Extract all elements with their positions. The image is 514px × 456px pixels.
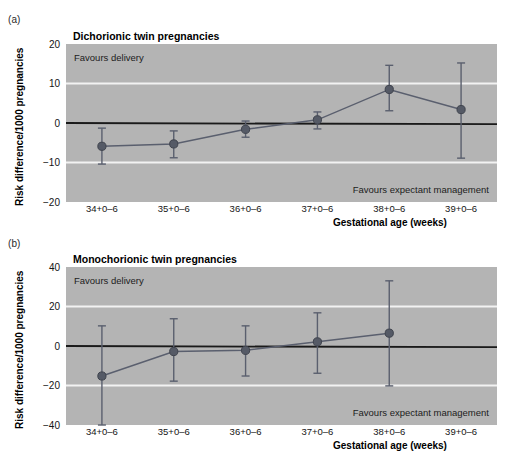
favours-expectant-management-note: Favours expectant management: [353, 184, 490, 195]
data-point-marker: [385, 329, 393, 337]
x-tick-label: 38+0–6: [373, 426, 405, 437]
x-tick-label: 34+0–6: [86, 426, 118, 437]
data-point-marker: [170, 140, 178, 148]
x-tick-label: 35+0–6: [158, 426, 190, 437]
x-tick-label: 38+0–6: [373, 203, 405, 214]
data-point-marker: [98, 372, 106, 380]
y-tick-label: 20: [49, 301, 61, 312]
y-tick-label: −20: [43, 197, 60, 208]
favours-expectant-management-note: Favours expectant management: [353, 407, 490, 418]
data-point-marker: [241, 125, 249, 133]
x-tick-label: 39+0–6: [445, 203, 477, 214]
data-point-marker: [241, 346, 249, 354]
panel-a-title: Dichorionic twin pregnancies: [73, 30, 219, 42]
panel-a-y-axis-title: Risk difference/1000 pregnancies: [14, 48, 25, 206]
y-tick-label: 0: [54, 341, 60, 352]
favours-delivery-note: Favours delivery: [74, 52, 144, 63]
y-tick-label: −40: [43, 420, 60, 431]
y-tick-label: 40: [49, 262, 61, 273]
panel-a-tag: (a): [8, 14, 21, 25]
data-point-marker: [98, 142, 106, 150]
x-tick-label: 36+0–6: [230, 203, 262, 214]
data-point-marker: [313, 116, 321, 124]
panel-b-monochorionic: (b) Monochorionic twin pregnancies Risk …: [0, 226, 514, 456]
y-tick-label: 20: [49, 39, 61, 50]
panel-b-title: Monochorionic twin pregnancies: [73, 253, 237, 265]
data-point-marker: [170, 347, 178, 355]
panel-b-y-axis-title: Risk difference/1000 pregnancies: [14, 271, 25, 429]
x-tick-label: 35+0–6: [158, 203, 190, 214]
panel-b-tag: (b): [8, 238, 21, 249]
data-point-marker: [385, 85, 393, 93]
y-tick-label: 0: [54, 118, 60, 129]
y-tick-label: 10: [49, 78, 61, 89]
x-tick-label: 37+0–6: [301, 426, 333, 437]
y-tick-label: −20: [43, 380, 60, 391]
y-tick-label: −10: [43, 157, 60, 168]
x-tick-label: 39+0–6: [445, 426, 477, 437]
panel-b-x-axis-title: Gestational age (weeks): [333, 440, 447, 451]
x-tick-label: 34+0–6: [86, 203, 118, 214]
data-point-marker: [457, 105, 465, 113]
favours-delivery-note: Favours delivery: [74, 275, 144, 286]
x-tick-label: 37+0–6: [301, 203, 333, 214]
x-tick-label: 36+0–6: [230, 426, 262, 437]
data-point-marker: [313, 338, 321, 346]
panel-a-dichorionic: (a) Dichorionic twin pregnancies Risk di…: [0, 0, 514, 230]
figure-twin-pregnancy-risk-difference: (a) Dichorionic twin pregnancies Risk di…: [0, 0, 514, 456]
